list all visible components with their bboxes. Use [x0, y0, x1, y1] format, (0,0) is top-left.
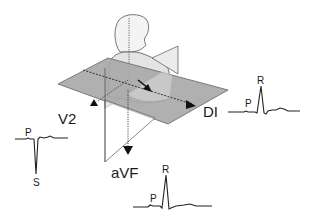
ecg-trace-avf: P R: [133, 164, 212, 209]
wave-label-v2-p: P: [25, 127, 32, 138]
ecg-trace-v2: P S: [15, 127, 68, 188]
wave-label-avf-p: P: [150, 193, 157, 204]
wave-label-v2-s: S: [33, 177, 40, 188]
v2-arrowhead-icon: [90, 99, 98, 106]
wave-label-di-r: R: [257, 75, 264, 86]
ecg-trace-di: P R: [228, 75, 300, 114]
ecg-lead-planes-diagram: V2 DI aVF P R P S P R: [0, 0, 321, 223]
lead-label-v2: V2: [58, 110, 76, 127]
avf-arrowhead-icon: [123, 146, 133, 155]
lead-label-di: DI: [203, 103, 218, 120]
wave-label-di-p: P: [245, 98, 252, 109]
lead-label-avf: aVF: [111, 164, 139, 181]
wave-label-avf-r: R: [162, 164, 169, 175]
